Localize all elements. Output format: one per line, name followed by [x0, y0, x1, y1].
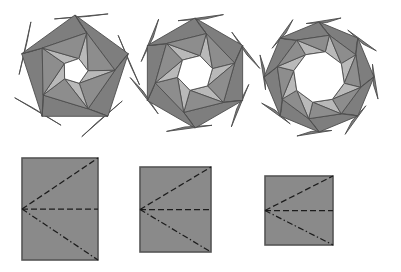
sheet-near-square: [140, 167, 211, 252]
figure-canvas: [0, 0, 401, 272]
sheet-tall-rectangle: [22, 158, 98, 260]
figure-svg: [0, 0, 401, 272]
sheet-wide-rectangle: [265, 176, 333, 245]
